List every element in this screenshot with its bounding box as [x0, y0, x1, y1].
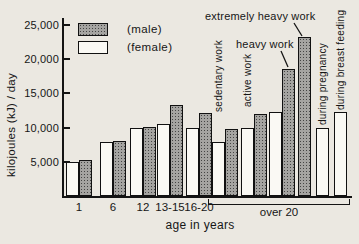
over-20-bracket [208, 199, 350, 205]
figure-canvas: kilojoules (kJ) / day age in years 16121… [0, 0, 359, 244]
over-20-label: over 20 [249, 206, 309, 218]
